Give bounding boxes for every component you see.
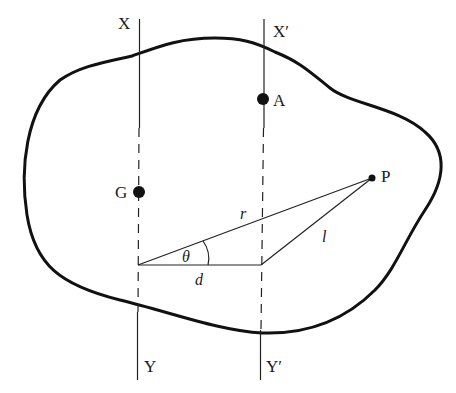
point-a-dot (257, 93, 269, 105)
label-g: G (115, 183, 127, 202)
label-l: l (322, 228, 327, 245)
point-p-dot (369, 175, 376, 182)
label-r: r (240, 205, 247, 222)
rigid-body-outline (24, 38, 441, 333)
segment-r (138, 178, 372, 265)
axis-xy-dashed (138, 128, 139, 312)
angle-theta-arc (203, 241, 209, 265)
segment-l (261, 178, 372, 265)
label-a: A (273, 91, 286, 110)
label-p: P (381, 167, 390, 186)
label-x-prime: X′ (273, 22, 289, 41)
label-x: X (118, 14, 130, 33)
parallel-axis-diagram: X X′ A G P r l d θ Y Y′ (0, 0, 456, 393)
label-y-prime: Y′ (266, 357, 282, 376)
axis-xpyp-dashed (261, 128, 264, 330)
label-y: Y (144, 357, 156, 376)
point-g-dot (133, 186, 145, 198)
label-theta: θ (182, 248, 190, 265)
label-d: d (195, 271, 204, 288)
